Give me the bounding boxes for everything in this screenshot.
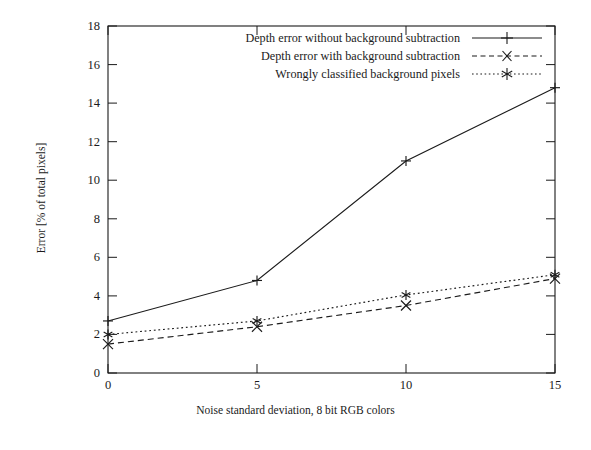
x-tick-label: 5 <box>237 378 277 393</box>
series-0 <box>103 83 560 326</box>
data-point-marker-cross <box>401 301 411 311</box>
y-tick-label: 12 <box>60 135 100 150</box>
series-1 <box>103 274 560 350</box>
data-point-marker-plus <box>103 316 113 326</box>
y-tick-label: 10 <box>60 173 100 188</box>
data-series-layer <box>103 83 560 349</box>
data-point-marker-plus <box>550 83 560 93</box>
legend-label: Wrongly classified background pixels <box>275 67 470 82</box>
x-tick-label: 15 <box>535 378 575 393</box>
y-tick-label: 4 <box>60 289 100 304</box>
legend-label: Depth error without background subtracti… <box>245 31 470 46</box>
y-axis-title: Error [% of total pixels] <box>35 88 47 308</box>
legend-key-solid-line-plus-marker <box>470 29 544 47</box>
legend-label: Depth error with background subtraction <box>261 49 470 64</box>
chart-legend: Depth error without background subtracti… <box>196 29 544 83</box>
y-tick-label: 6 <box>60 250 100 265</box>
y-tick-label: 16 <box>60 58 100 73</box>
legend-key-dashed-line-cross-marker <box>470 47 544 65</box>
legend-item: Depth error with background subtraction <box>196 47 544 65</box>
legend-item: Wrongly classified background pixels <box>196 65 544 83</box>
y-tick-label: 8 <box>60 212 100 227</box>
x-tick-label: 0 <box>88 378 128 393</box>
chart-figure: 18 16 14 12 10 8 6 4 2 0 0 5 10 15 Noise… <box>0 0 591 450</box>
y-tick-label: 14 <box>60 96 100 111</box>
series-2 <box>104 270 560 340</box>
y-tick-label: 2 <box>60 327 100 342</box>
legend-item: Depth error without background subtracti… <box>196 29 544 47</box>
x-axis-title: Noise standard deviation, 8 bit RGB colo… <box>0 404 591 416</box>
y-tick-label: 18 <box>60 19 100 34</box>
data-point-marker-asterisk <box>551 270 560 280</box>
legend-key-dotted-line-asterisk-marker <box>470 65 544 83</box>
x-tick-label: 10 <box>386 378 426 393</box>
